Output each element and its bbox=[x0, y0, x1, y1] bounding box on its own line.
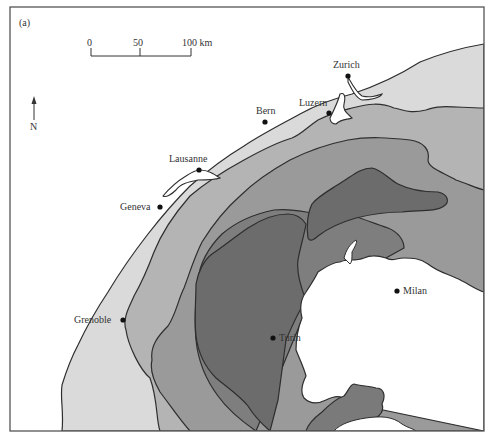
city-dot-icon bbox=[262, 119, 267, 124]
city-dot-icon bbox=[270, 335, 275, 340]
north-label: N bbox=[30, 121, 37, 132]
city-geneva: Geneva bbox=[120, 201, 163, 212]
city-label: Bern bbox=[256, 105, 275, 116]
scale-tick-50: 50 bbox=[133, 37, 143, 48]
north-arrow: N bbox=[30, 96, 37, 132]
scale-tick-0: 0 bbox=[87, 37, 92, 48]
city-label: Luzern bbox=[299, 97, 327, 108]
city-dot-icon bbox=[157, 204, 162, 209]
city-label: Milan bbox=[403, 285, 427, 296]
map-zones bbox=[61, 44, 484, 431]
panel-label: (a) bbox=[19, 17, 30, 29]
city-dot-icon bbox=[345, 73, 350, 78]
scale-tick-100: 100 km bbox=[182, 37, 213, 48]
city-bern: Bern bbox=[256, 105, 275, 125]
city-dot-icon bbox=[196, 167, 201, 172]
city-zurich: Zurich bbox=[333, 59, 360, 79]
alpine-zone-map: (a) 0 50 100 km N Zurich Luzern Bern Lau… bbox=[0, 0, 496, 439]
city-label: Geneva bbox=[120, 201, 151, 212]
city-label: Turin bbox=[279, 332, 301, 343]
city-label: Zurich bbox=[333, 59, 360, 70]
city-dot-icon bbox=[326, 110, 331, 115]
city-label: Lausanne bbox=[169, 153, 208, 164]
scale-bar: 0 50 100 km bbox=[87, 37, 213, 56]
city-dot-icon bbox=[394, 288, 399, 293]
arrow-up-icon bbox=[32, 96, 37, 104]
city-dot-icon bbox=[120, 317, 125, 322]
city-label: Grenoble bbox=[74, 314, 112, 325]
